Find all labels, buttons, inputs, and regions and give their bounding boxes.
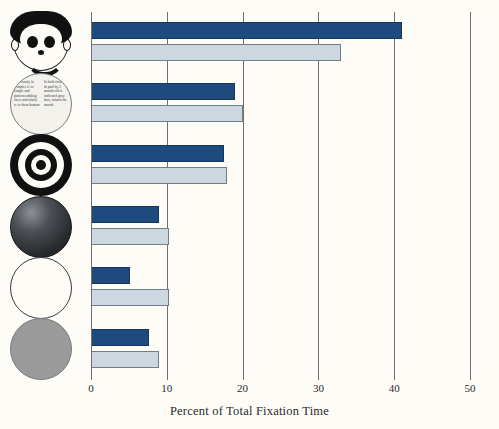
- stimulus-icon-dark-disc: [10, 196, 72, 258]
- x-tick-label-10: 10: [161, 382, 172, 394]
- dark-disc-icon: [10, 196, 72, 258]
- plot-area: [91, 12, 470, 380]
- face-hair: [10, 11, 72, 45]
- face-icon: [10, 12, 72, 74]
- gridline-30: [318, 12, 319, 380]
- gridline-20: [243, 12, 244, 380]
- stimulus-icon-newsprint: ing viously in complex le to simple and …: [10, 73, 72, 135]
- bullseye-icon: [10, 134, 72, 196]
- x-tick-label-0: 0: [88, 382, 94, 394]
- bar-gray-disc-series-0: [91, 329, 149, 346]
- bullseye-center: [36, 160, 46, 170]
- gridline-50: [470, 12, 471, 380]
- gridline-40: [394, 12, 395, 380]
- bar-white-disc-series-1: [91, 289, 169, 306]
- bar-schematic-face-series-1: [91, 44, 341, 61]
- x-tick-label-20: 20: [237, 382, 248, 394]
- newsprint-column-left: ing viously in complex le to simple and …: [14, 80, 40, 130]
- stimulus-icon-white-disc: [10, 257, 72, 319]
- bar-bullseye-series-1: [91, 167, 227, 184]
- bar-schematic-face-series-0: [91, 22, 402, 39]
- bar-newsprint-series-1: [91, 105, 243, 122]
- bar-newsprint-series-0: [91, 83, 235, 100]
- newsprint-icon: ing viously in complex le to simple and …: [10, 73, 72, 135]
- bar-gray-disc-series-1: [91, 351, 159, 368]
- x-tick-label-40: 40: [389, 382, 400, 394]
- gray-disc-icon: [10, 318, 72, 380]
- gridline-10: [167, 12, 168, 380]
- bar-bullseye-series-0: [91, 145, 224, 162]
- face-eye-right: [44, 36, 55, 48]
- stimulus-icon-gray-disc: [10, 318, 72, 380]
- white-disc-icon: [10, 257, 72, 319]
- x-axis-title: Percent of Total Fixation Time: [0, 404, 499, 419]
- stimulus-icon-bullseye: [10, 134, 72, 196]
- x-tick-label-50: 50: [465, 382, 476, 394]
- newsprint-column-right: In both fixation th paid by 2 month-old …: [44, 80, 70, 130]
- face-forehead: [20, 24, 62, 50]
- y-axis-line: [91, 12, 92, 380]
- bar-dark-disc-series-0: [91, 206, 159, 223]
- chart-figure: 01020304050 Percent of Total Fixation Ti…: [0, 0, 499, 429]
- face-eye-left: [27, 36, 38, 48]
- newsprint-columns: ing viously in complex le to simple and …: [14, 80, 70, 130]
- bar-dark-disc-series-1: [91, 228, 169, 245]
- bar-white-disc-series-0: [91, 267, 130, 284]
- stimulus-icon-schematic-face: [10, 12, 72, 74]
- x-tick-label-30: 30: [313, 382, 324, 394]
